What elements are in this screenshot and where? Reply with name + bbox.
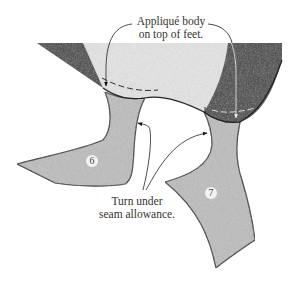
left-foot-piece	[17, 92, 145, 186]
piece-number-7: 7	[205, 187, 217, 199]
top-callout-line1: Appliqué body	[130, 15, 212, 28]
appliqué-diagram	[0, 0, 298, 287]
bottom-callout-line1: Turn under	[92, 195, 182, 208]
bottom-callout-label: Turn under seam allowance.	[92, 195, 182, 221]
piece-number-6: 6	[86, 155, 98, 167]
top-callout-label: Appliqué body on top of feet.	[130, 15, 212, 41]
bottom-callout-left-leader	[138, 123, 151, 190]
bottom-callout-line2: seam allowance.	[92, 208, 182, 221]
top-callout-line2: on top of feet.	[130, 28, 212, 41]
